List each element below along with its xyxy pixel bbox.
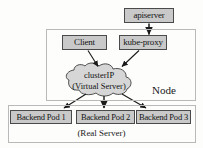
- node-kube-proxy[interactable]: kube-proxy: [119, 35, 167, 50]
- node-container-label: Node: [152, 85, 176, 96]
- node-cluster-ip[interactable]: clusterIP (Virtual Server): [60, 64, 138, 95]
- node-client-label: Client: [74, 38, 95, 47]
- diagram-canvas: apiserver Client kube-proxy clusterIP (V…: [0, 0, 203, 148]
- node-backend-pod-1-label: Backend Pod 1: [17, 113, 66, 122]
- node-backend-pod-3-label: Backend Pod 3: [139, 113, 188, 122]
- node-kube-proxy-label: kube-proxy: [123, 38, 163, 47]
- node-apiserver-label: apiserver: [133, 11, 164, 20]
- node-client[interactable]: Client: [62, 35, 107, 50]
- node-apiserver[interactable]: apiserver: [124, 8, 174, 23]
- node-cluster-ip-label-secondary: (Virtual Server): [60, 82, 138, 91]
- node-backend-pod-3[interactable]: Backend Pod 3: [136, 110, 191, 124]
- node-cluster-ip-label-primary: clusterIP: [60, 71, 138, 80]
- node-backend-pod-1[interactable]: Backend Pod 1: [10, 110, 72, 124]
- real-server-container-label: (Real Server): [0, 129, 203, 138]
- node-backend-pod-2-label: Backend Pod 2: [81, 113, 130, 122]
- node-backend-pod-2[interactable]: Backend Pod 2: [76, 110, 135, 124]
